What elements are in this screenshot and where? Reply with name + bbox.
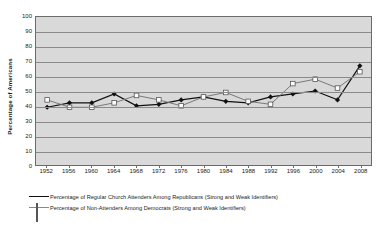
legend-item-democrats: Percentage of Non-Attenders Among Democr… bbox=[28, 202, 328, 213]
x-tick-mark bbox=[361, 165, 362, 168]
filled-diamond-icon bbox=[28, 191, 50, 202]
data-point bbox=[268, 94, 273, 99]
y-tick-100: 100 bbox=[16, 13, 32, 19]
x-tick-mark bbox=[338, 165, 339, 168]
y-tick-10: 10 bbox=[16, 148, 32, 154]
plot-area bbox=[35, 16, 372, 166]
x-tick-mark bbox=[316, 165, 317, 168]
gridline bbox=[36, 47, 371, 48]
y-tick-50: 50 bbox=[16, 88, 32, 94]
gridline bbox=[36, 137, 371, 138]
x-axis-tick-labels: 1952195619601964196819721976198019841988… bbox=[35, 168, 372, 180]
x-tick-mark bbox=[271, 165, 272, 168]
data-point bbox=[291, 81, 296, 86]
x-tick-mark bbox=[114, 165, 115, 168]
gridline bbox=[36, 32, 371, 33]
y-tick-30: 30 bbox=[16, 118, 32, 124]
open-square-icon bbox=[28, 202, 50, 213]
y-tick-20: 20 bbox=[16, 133, 32, 139]
x-tick-mark bbox=[204, 165, 205, 168]
gridline bbox=[36, 107, 371, 108]
gridline bbox=[36, 77, 371, 78]
data-point bbox=[246, 99, 251, 104]
y-axis-title-label: Percentage of Americans bbox=[6, 58, 13, 134]
y-tick-90: 90 bbox=[16, 28, 32, 34]
x-tick-2008: 2008 bbox=[346, 168, 376, 175]
data-point bbox=[112, 101, 117, 106]
data-point bbox=[45, 98, 50, 103]
data-point bbox=[157, 98, 162, 103]
x-tick-mark bbox=[69, 165, 70, 168]
series-lines bbox=[36, 17, 371, 165]
legend-label-democrats: Percentage of Non-Attenders Among Democr… bbox=[50, 205, 246, 211]
y-tick-0: 0 bbox=[16, 163, 32, 169]
x-tick-mark bbox=[293, 165, 294, 168]
x-tick-mark bbox=[159, 165, 160, 168]
gridline bbox=[36, 152, 371, 153]
data-point bbox=[268, 102, 273, 107]
data-point bbox=[179, 97, 184, 102]
line-chart: Percentage of Americans 0102030405060708… bbox=[0, 0, 379, 226]
legend-label-republicans: Percentage of Regular Church Attenders A… bbox=[50, 194, 278, 200]
data-point bbox=[134, 93, 139, 98]
x-tick-mark bbox=[91, 165, 92, 168]
x-tick-mark bbox=[46, 165, 47, 168]
y-tick-60: 60 bbox=[16, 73, 32, 79]
data-point bbox=[335, 86, 340, 91]
x-tick-mark bbox=[181, 165, 182, 168]
y-tick-40: 40 bbox=[16, 103, 32, 109]
x-tick-mark bbox=[226, 165, 227, 168]
y-tick-80: 80 bbox=[16, 43, 32, 49]
x-tick-mark bbox=[248, 165, 249, 168]
legend-item-republicans: Percentage of Regular Church Attenders A… bbox=[28, 191, 328, 202]
y-tick-70: 70 bbox=[16, 58, 32, 64]
gridline bbox=[36, 62, 371, 63]
data-point bbox=[223, 99, 228, 104]
data-point bbox=[201, 95, 206, 100]
data-point bbox=[358, 69, 363, 74]
chart-legend: Percentage of Regular Church Attenders A… bbox=[28, 191, 328, 213]
gridline bbox=[36, 122, 371, 123]
gridline bbox=[36, 92, 371, 93]
x-tick-mark bbox=[136, 165, 137, 168]
series-line-1 bbox=[47, 66, 360, 107]
